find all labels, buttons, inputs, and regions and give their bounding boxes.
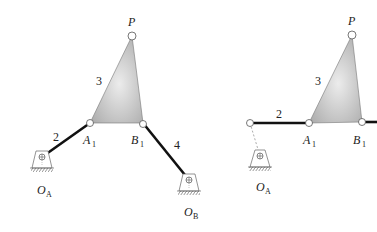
svg-text:A: A — [82, 133, 91, 147]
svg-text:B: B — [131, 133, 139, 147]
label-A1: A 1 — [82, 133, 96, 149]
svg-text:1: 1 — [362, 140, 366, 149]
svg-text:1: 1 — [92, 140, 96, 149]
label-link-3: 3 — [96, 74, 102, 88]
svg-text:1: 1 — [140, 140, 144, 149]
four-bar-linkage-diagram: P 3 2 4 A 1 B 1 O A O B — [0, 0, 377, 232]
label-A1: A 1 — [302, 133, 316, 149]
svg-text:B: B — [193, 212, 198, 221]
svg-text:B: B — [353, 133, 361, 147]
svg-text:A: A — [302, 133, 311, 147]
pin-P — [128, 32, 136, 40]
svg-text:O: O — [37, 183, 46, 197]
pin-P — [348, 31, 356, 39]
output-link-4 — [143, 123, 189, 180]
svg-text:O: O — [256, 180, 265, 194]
svg-text:A: A — [46, 190, 52, 199]
label-link-2: 2 — [276, 107, 282, 121]
label-B1: B 1 — [353, 133, 366, 149]
label-P: P — [347, 14, 356, 28]
svg-text:O: O — [184, 205, 193, 219]
ground-pivot-OA — [30, 151, 54, 172]
pin-B1 — [359, 119, 366, 126]
ground-pivot-OB — [177, 174, 201, 195]
label-P: P — [127, 15, 136, 29]
pin-A1 — [87, 120, 94, 127]
label-link-4: 4 — [174, 138, 180, 152]
label-link-3: 3 — [315, 74, 321, 88]
pin-crank-end — [247, 120, 254, 127]
svg-text:1: 1 — [312, 140, 316, 149]
left-linkage: P 3 2 4 A 1 B 1 O A O B — [30, 15, 201, 221]
ground-pivot-OA — [248, 150, 272, 171]
pin-B1 — [140, 121, 147, 128]
label-OB: O B — [184, 205, 198, 221]
label-B1: B 1 — [131, 133, 144, 149]
label-link-2: 2 — [53, 130, 59, 144]
pin-A1 — [306, 120, 313, 127]
label-OA: O A — [37, 183, 52, 199]
right-linkage: P 3 2 A 1 B 1 O A — [247, 14, 377, 196]
label-OA: O A — [256, 180, 271, 196]
svg-text:A: A — [265, 187, 271, 196]
